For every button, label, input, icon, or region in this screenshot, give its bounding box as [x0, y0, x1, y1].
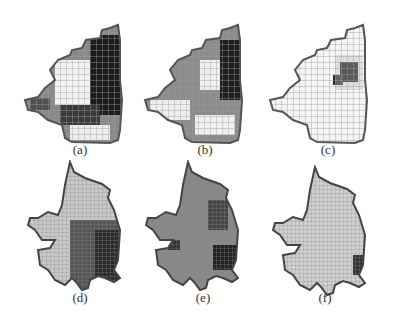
map-panel-b — [120, 20, 255, 145]
panel-label-d: (d) — [60, 290, 100, 306]
map-panel-c — [245, 20, 380, 145]
map-panel-e — [128, 160, 253, 295]
map-panel-f — [255, 165, 380, 300]
panel-label-b: (b) — [185, 142, 225, 158]
panel-label-f: (f) — [305, 290, 345, 306]
map-panel-d — [10, 160, 135, 295]
map-panel-a — [0, 20, 135, 145]
panel-label-c: (c) — [308, 142, 348, 158]
panel-label-e: (e) — [183, 290, 223, 306]
panel-label-a: (a) — [60, 142, 100, 158]
